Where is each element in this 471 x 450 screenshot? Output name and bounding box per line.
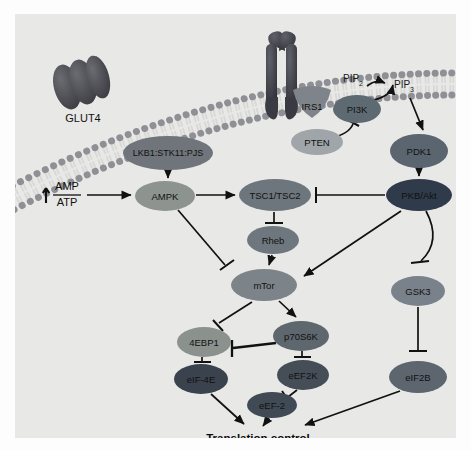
node-lkb1[interactable]: LKB1:STK11:PJS	[123, 136, 213, 170]
edge-pkbakt-to-gsk3	[421, 211, 433, 261]
node-label-pdk1: PDK1	[407, 146, 432, 157]
node-label-rheb: Rheb	[262, 235, 285, 246]
pathway-canvas: GLUT4	[15, 14, 456, 438]
node-label-irs1: IRS1	[301, 101, 322, 112]
node-eif2b[interactable]: eIF2B	[389, 361, 447, 393]
lipid-sub-pip2: 2	[359, 80, 363, 87]
node-label-pkbakt: PKB/Akt	[401, 190, 437, 201]
glut4-label: GLUT4	[65, 112, 100, 124]
node-label-p70s6k: p70S6K	[284, 331, 318, 342]
node-label-lkb1: LKB1:STK11:PJS	[133, 148, 203, 158]
edge-mtor-to-4ebp1	[219, 302, 252, 323]
node-pdk1[interactable]: PDK1	[390, 134, 448, 168]
node-label-tsc: TSC1/TSC2	[249, 190, 300, 201]
edge-pip3-to-pdk1	[410, 98, 423, 130]
node-mtor[interactable]: mTor	[231, 269, 297, 301]
lipid-base-pip3: PIP	[394, 79, 410, 90]
node-label-gsk3: GSK3	[405, 286, 430, 297]
amp-label: AMP	[55, 180, 79, 192]
node-pten[interactable]: PTEN	[291, 129, 343, 155]
edge-eif2b-to-output	[305, 391, 400, 425]
node-eif4e[interactable]: eIF-4E	[174, 364, 228, 394]
edge-pkbakt-to-gsk3-bar	[411, 261, 429, 263]
edge-mtor-to-p70s6k	[279, 301, 296, 317]
edge-rheb-to-mtor	[269, 255, 272, 265]
node-pi3k[interactable]: PI3K	[333, 95, 381, 123]
node-label-eif4e: eIF-4E	[187, 374, 216, 385]
node-label-mtor: mTor	[253, 280, 274, 291]
node-label-4ebp1: 4EBP1	[189, 337, 219, 348]
edge-p70s6k-to-4ebp1	[233, 343, 276, 348]
node-label-eef2: eEF-2	[259, 400, 285, 411]
glut4-transporter	[48, 53, 114, 113]
node-label-pi3k: PI3K	[347, 104, 368, 115]
node-ampk[interactable]: AMPK	[135, 181, 195, 211]
node-4ebp1[interactable]: 4EBP1	[177, 327, 231, 357]
node-gsk3[interactable]: GSK3	[391, 276, 445, 306]
node-label-ampk: AMPK	[152, 191, 180, 202]
node-label-eef2k: eEF2K	[288, 370, 318, 381]
translation-control-label: Translation control	[206, 432, 310, 438]
edge-pkbakt-to-mtor	[304, 211, 401, 276]
node-label-eif2b: eIF2B	[405, 372, 430, 383]
node-pkbakt[interactable]: PKB/Akt	[386, 179, 452, 211]
lipid-sub-pip3: 3	[410, 86, 414, 93]
edge-ampk-to-mtor	[178, 210, 225, 265]
atp-label: ATP	[57, 196, 78, 208]
node-eef2[interactable]: eEF-2	[247, 392, 297, 418]
edge-eif4e-to-output	[211, 394, 244, 424]
pathway-panel: GLUT4	[15, 14, 456, 438]
edge-eef2-to-output	[263, 418, 269, 426]
node-p70s6k[interactable]: p70S6K	[273, 321, 329, 351]
pathway-figure: GLUT4	[0, 0, 471, 450]
node-irs1[interactable]: IRS1	[293, 86, 331, 118]
lipid-base-pip2: PIP	[343, 73, 359, 84]
node-label-pten: PTEN	[304, 137, 329, 148]
node-tsc[interactable]: TSC1/TSC2	[239, 179, 311, 211]
node-rheb[interactable]: Rheb	[247, 226, 299, 254]
node-eef2k[interactable]: eEF2K	[277, 360, 329, 390]
